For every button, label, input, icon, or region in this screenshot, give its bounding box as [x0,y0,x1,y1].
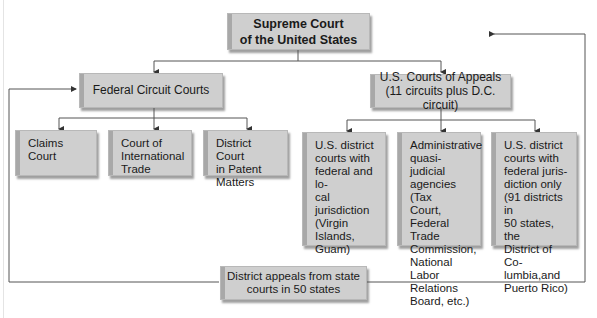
patent-court-box: District Court in Patent Matters [203,130,288,176]
district-line8: lumbia,and [504,269,568,282]
admin-line1: Administrative [410,139,472,152]
territorial-line3: federal and lo- [315,165,377,191]
district-line3: federal juris- [504,165,568,178]
district-line5: (91 districts in [504,191,568,217]
admin-line4: Court, Federal [410,204,472,230]
district-line1: U.S. district [504,139,568,152]
patent-line1: District Court [216,137,279,163]
appeals-line2: (11 circuits plus D.C. circuit) [371,84,510,112]
district-line4: diction only [504,178,568,191]
admin-line7: National Labor [410,256,472,282]
claims-court-box: Claims Court [15,130,97,176]
state-appeals-line2: courts in 50 states [227,283,360,296]
international-trade-box: Court of International Trade [108,130,192,176]
state-appeals-box: District appeals from state courts in 50… [220,266,367,300]
admin-line5: Trade [410,230,472,243]
district-line9: Puerto Rico) [504,282,568,295]
territorial-line5: (Virgin Islands, [315,217,377,243]
supreme-court-line2: of the United States [240,32,357,48]
district-line7: District of Co- [504,243,568,269]
claims-court-line1: Claims Court [28,137,88,163]
administrative-agencies-box: Administrative quasi-judicial agencies (… [397,132,481,246]
trade-line1: Court of [121,137,183,150]
appeals-line1: U.S. Courts of Appeals [371,70,510,84]
federal-circuit-box: Federal Circuit Courts [79,73,223,108]
district-line6: 50 states, the [504,217,568,243]
supreme-court-line1: Supreme Court [240,16,357,32]
trade-line3: Trade [121,163,183,176]
federal-circuit-label: Federal Circuit Courts [93,84,210,97]
admin-line2: quasi-judicial [410,152,472,178]
admin-line9: Board, etc.) [410,295,472,308]
patent-line3: Matters [216,176,279,189]
territorial-line2: courts with [315,152,377,165]
federal-district-courts-box: U.S. district courts with federal juris-… [491,132,577,246]
admin-line8: Relations [410,282,472,295]
patent-line2: in Patent [216,163,279,176]
admin-line3: agencies (Tax [410,178,472,204]
territorial-line1: U.S. district [315,139,377,152]
territorial-line6: Guam) [315,243,377,256]
appeals-box: U.S. Courts of Appeals (11 circuits plus… [370,74,511,108]
state-appeals-line1: District appeals from state [227,270,360,283]
territorial-line4: cal jurisdiction [315,191,377,217]
admin-line6: Commission, [410,243,472,256]
trade-line2: International [121,150,183,163]
district-line2: courts with [504,152,568,165]
supreme-court-box: Supreme Court of the United States [227,13,370,50]
territorial-courts-box: U.S. district courts with federal and lo… [302,132,386,246]
